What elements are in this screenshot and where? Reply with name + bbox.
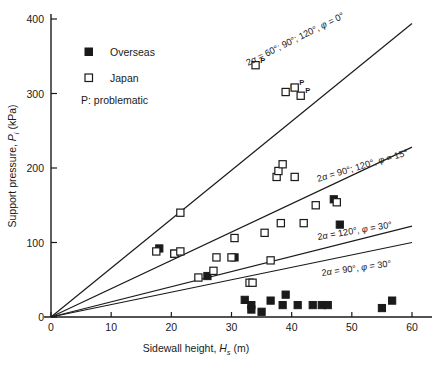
problematic-marker-label: P: [299, 78, 304, 87]
data-point-japan: [231, 234, 238, 241]
y-tick-label-400: 400: [26, 13, 44, 25]
legend-note-problematic: P: problematic: [81, 94, 148, 106]
y-axis-title: Support pressure, Pi (kPa): [6, 104, 21, 227]
data-point-japan-problematic: [282, 88, 289, 95]
data-point-japan: [277, 220, 284, 227]
legend-label-japan: Japan: [110, 72, 139, 84]
curve-label-phi0-tail: = 0°: [324, 10, 346, 28]
curve-label-phi15-mid: = 90°; 120°,: [326, 156, 380, 181]
data-point-japan-problematic: [297, 92, 304, 99]
x-axis-title: Sidewall height, Hs (m): [143, 342, 249, 357]
data-point-japan: [213, 254, 220, 261]
x-axis-ticks: 0102030405060: [48, 312, 418, 333]
curve-label-phi30-90: 2α = 90°, φ = 30°: [321, 258, 392, 278]
data-point-overseas: [258, 308, 265, 315]
x-tick-label-40: 40: [286, 321, 298, 333]
data-point-overseas: [378, 304, 385, 311]
y-axis-title-pre: Support pressure,: [6, 141, 18, 227]
problematic-marker-label: P: [305, 86, 310, 95]
data-point-japan: [261, 229, 268, 236]
y-axis-title-post: (kPa): [6, 104, 18, 132]
x-tick-label-50: 50: [346, 321, 358, 333]
x-axis-title-pre: Sidewall height,: [143, 342, 219, 354]
data-point-overseas: [248, 306, 255, 313]
x-axis-title-post: (m): [231, 342, 250, 354]
scatter-plot: 0102030405060 0100200300400 PPPP Oversea…: [0, 0, 438, 366]
legend-label-overseas: Overseas: [110, 46, 155, 58]
legend-marker-overseas: [85, 48, 93, 56]
y-tick-label-300: 300: [26, 88, 44, 100]
y-axis-title-symbol: P: [6, 134, 18, 141]
curve-label-phi15-tail: = 15°: [383, 147, 410, 164]
y-tick-label-100: 100: [26, 237, 44, 249]
y-tick-label-200: 200: [26, 162, 44, 174]
y-tick-label-0: 0: [38, 311, 44, 323]
curve-label-phi30-90-tail: = 30°: [366, 258, 392, 271]
data-point-japan: [210, 267, 217, 274]
curve-labels: 2α = 60°; 90°; 120°, φ = 0° 2α = 90°; 12…: [244, 10, 409, 278]
data-point-japan: [300, 220, 307, 227]
data-point-overseas: [282, 291, 289, 298]
curve-label-phi0-mid: = 60°; 90°; 120°,: [254, 22, 323, 63]
data-points: PPPP: [153, 56, 396, 316]
data-point-japan: [333, 199, 340, 206]
chart-container: 0102030405060 0100200300400 PPPP Oversea…: [0, 0, 438, 366]
x-tick-label-0: 0: [48, 321, 54, 333]
data-point-overseas: [279, 301, 286, 308]
curve-label-phi30-120-mid: = 120°,: [327, 225, 363, 241]
data-point-overseas: [267, 297, 274, 304]
data-point-japan: [177, 209, 184, 216]
data-point-japan: [267, 257, 274, 264]
data-point-overseas: [309, 301, 316, 308]
data-point-overseas: [294, 301, 301, 308]
x-tick-label-60: 60: [406, 321, 418, 333]
curve-label-phi30-90-mid: = 90°,: [331, 263, 362, 277]
x-tick-label-30: 30: [226, 321, 238, 333]
data-point-japan: [279, 161, 286, 168]
data-point-japan-problematic: [291, 84, 298, 91]
data-point-japan: [291, 173, 298, 180]
curve-label-phi0: 2α = 60°; 90°; 120°, φ = 0°: [244, 10, 346, 67]
y-axis-ticks: 0100200300400: [26, 13, 57, 323]
curve-label-phi30-120: 2α = 120°, φ = 30°: [317, 220, 393, 242]
data-point-japan: [195, 274, 202, 281]
x-tick-label-20: 20: [165, 321, 177, 333]
legend-marker-japan: [85, 74, 93, 82]
curve-label-phi15: 2α = 90°; 120°, φ = 15°: [316, 147, 410, 183]
data-point-japan: [228, 254, 235, 261]
data-point-japan: [153, 248, 160, 255]
data-point-overseas: [389, 297, 396, 304]
x-tick-label-10: 10: [105, 321, 117, 333]
legend: Overseas Japan P: problematic: [81, 46, 155, 107]
data-point-overseas: [324, 301, 331, 308]
data-point-japan: [249, 279, 256, 286]
data-point-japan: [312, 202, 319, 209]
data-point-japan: [177, 248, 184, 255]
